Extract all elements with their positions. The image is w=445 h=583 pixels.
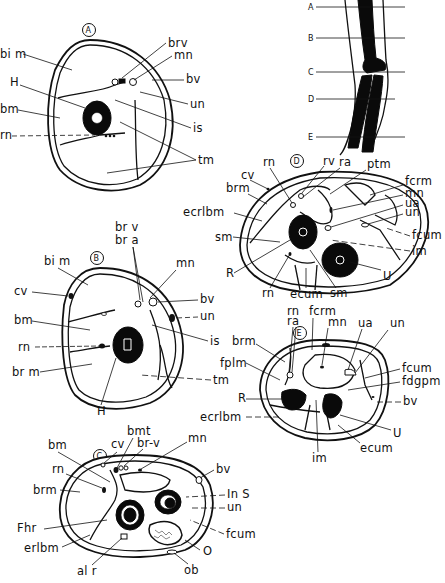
label-c-Fhr: Fhr [17, 521, 37, 535]
label-c-O: O [203, 544, 212, 558]
label-b-un: un [200, 309, 215, 323]
label-a-bv: bv [186, 72, 201, 86]
level-label-A: A [308, 3, 314, 12]
label-e-ra: ra [287, 314, 299, 328]
label-b-cv: cv [14, 284, 28, 298]
label-b-tm: tm [213, 373, 229, 387]
label-d-R: R [226, 266, 234, 280]
label-d-ecum: ecum [290, 287, 323, 301]
label-d-im: im [412, 244, 427, 258]
level-label-D: D [308, 95, 314, 104]
label-c-rn: rn [52, 462, 64, 476]
label-c-bm: bm [48, 438, 67, 452]
label-b-bra: br a [115, 233, 139, 247]
label-b-rn: rn [18, 340, 30, 354]
label-d-U: U [383, 269, 392, 283]
label-e-fcum: fcum [402, 361, 432, 375]
label-d-ptm: ptm [367, 157, 391, 171]
label-e-brm: brm [232, 334, 256, 348]
label-d-brm: brm [226, 181, 250, 195]
label-c-mn: mn [188, 431, 207, 445]
label-d-rn-top: rn [263, 155, 275, 169]
label-b-mn: mn [176, 256, 195, 270]
label-b-bv: bv [200, 292, 215, 306]
label-c-brv: br-v [137, 436, 160, 450]
label-c-ob: ob [184, 563, 199, 577]
anatomy-diagram: A B C D E A bi m H bm rn brv [0, 0, 445, 583]
label-a-H: H [10, 75, 19, 89]
label-a-mn: mn [174, 48, 193, 62]
label-e-fdgpm: fdgpm [402, 374, 441, 388]
label-c-erlbm: erlbm [24, 541, 59, 555]
label-d-fcum: fcum [412, 228, 442, 242]
label-b-bim: bi m [44, 254, 71, 268]
section-marker-a-label: A [86, 26, 92, 35]
label-e-un: un [390, 316, 405, 330]
label-e-U: U [393, 426, 402, 440]
label-b-bm: bm [14, 313, 33, 327]
label-a-rn: rn [0, 128, 12, 142]
label-d-sm-bottom: sm [330, 286, 348, 300]
label-d-cv: cv [241, 168, 255, 182]
label-c-alr: al r [77, 564, 97, 578]
label-e-ua: ua [358, 316, 373, 330]
label-c-bv: bv [216, 462, 231, 476]
label-e-ecum: ecum [360, 441, 393, 455]
label-d-ra: ra [339, 155, 351, 169]
label-b-H: H [97, 404, 106, 418]
label-a-un: un [190, 97, 205, 111]
label-d-rv: rv [323, 154, 335, 168]
label-a-tm: tm [198, 153, 214, 167]
label-e-bv: bv [403, 394, 418, 408]
label-a-bm: bm [0, 102, 19, 116]
level-label-B: B [308, 34, 314, 43]
label-c-InS: In S [227, 487, 250, 501]
level-label-C: C [308, 68, 314, 77]
label-e-fplm: fplm [220, 356, 247, 370]
section-marker-e-label: E [297, 329, 302, 338]
label-b-brm: br m [12, 365, 40, 379]
cross-section-d: D [240, 155, 428, 294]
label-c-cv: cv [111, 437, 125, 451]
label-d-sm-left: sm [215, 230, 233, 244]
section-marker-b-label: B [94, 254, 100, 263]
label-c-brm: brm [33, 483, 57, 497]
label-b-brv: br v [115, 220, 139, 234]
cross-section-a: A [48, 24, 173, 191]
section-marker-d-label: D [294, 157, 300, 166]
label-e-mn: mn [328, 315, 347, 329]
label-e-R: R [238, 391, 246, 405]
label-d-rn-bottom: rn [262, 286, 274, 300]
label-c-fcum: fcum [226, 527, 256, 541]
label-b-is: is [210, 334, 220, 348]
cross-section-b: B [62, 252, 183, 409]
label-a-is: is [193, 121, 203, 135]
cross-section-c: C [60, 450, 213, 558]
reference-limb: A B C D E [308, 0, 405, 155]
level-label-E: E [308, 133, 313, 142]
label-a-bim: bi m [0, 47, 27, 61]
label-d-ecrlbm: ecrlbm [183, 205, 225, 219]
humerus-bone [113, 327, 143, 363]
label-e-im: im [312, 451, 327, 465]
label-c-un: un [227, 500, 242, 514]
label-d-un: un [405, 205, 420, 219]
label-e-ecrlbm: ecrlbm [200, 410, 242, 424]
